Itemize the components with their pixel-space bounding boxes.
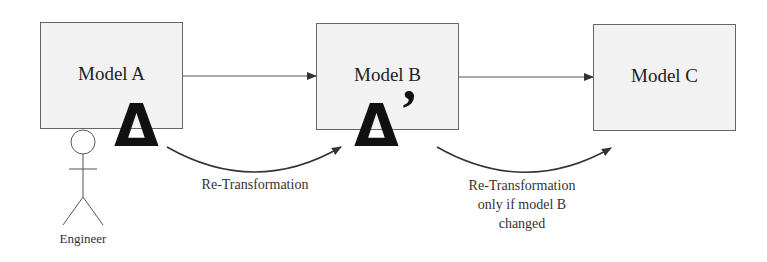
model-c-box[interactable]: Model C bbox=[593, 24, 736, 131]
label-line-2: only if model B bbox=[452, 195, 592, 214]
label-line-3: changed bbox=[452, 214, 592, 233]
engineer-actor-icon bbox=[63, 130, 103, 225]
conditional-re-transformation-label: Re-Transformation only if model B change… bbox=[452, 176, 592, 233]
model-a-box[interactable]: Model A bbox=[40, 22, 183, 129]
re-transformation-label: Re-Transformation bbox=[190, 175, 320, 194]
label-line-1: Re-Transformation bbox=[452, 176, 592, 195]
model-c-label: Model C bbox=[631, 65, 698, 87]
delta-a-symbol: Δ bbox=[114, 94, 159, 158]
model-a-label: Model A bbox=[78, 63, 145, 85]
curve-arrow-b-to-c bbox=[437, 147, 611, 172]
delta-b-prime-mark: ’ bbox=[400, 82, 418, 136]
curve-arrow-a-to-b bbox=[167, 147, 341, 172]
delta-b-symbol: Δ bbox=[354, 94, 399, 158]
engineer-label: Engineer bbox=[43, 229, 123, 248]
